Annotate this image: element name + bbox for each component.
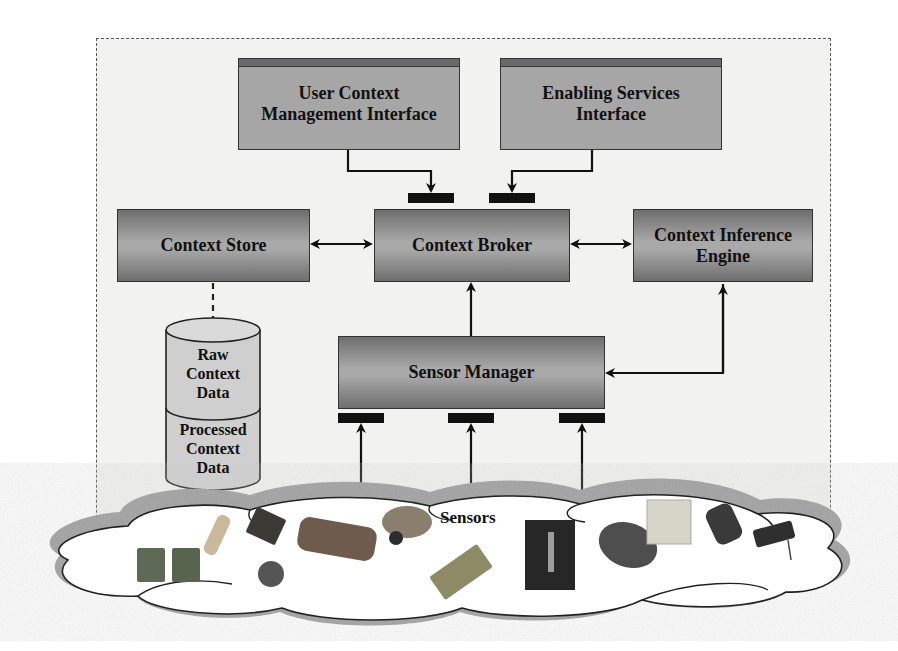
interface-header-bar (239, 59, 459, 67)
processed-line1: Processed (162, 420, 264, 439)
user-context-management-interface-box: User Context Management Interface (238, 58, 460, 150)
broker-port-right (489, 193, 535, 203)
enabling-services-line1: Enabling Services (538, 83, 684, 104)
sensor-port-1 (338, 413, 384, 423)
processed-line2: Context (162, 439, 264, 458)
context-store-box: Context Store (117, 209, 310, 282)
edge-sensors-to-manager (361, 425, 582, 492)
user-context-interface-line1: User Context (294, 83, 403, 104)
user-context-interface-line2: Management Interface (257, 104, 440, 125)
context-broker-label: Context Broker (408, 235, 536, 256)
edge-user-interface-to-broker (348, 148, 431, 191)
enabling-services-interface-box: Enabling Services Interface (500, 58, 722, 150)
edge-inference-to-sensor-manager (607, 284, 723, 373)
edge-enabling-services-to-broker (512, 148, 592, 191)
context-broker-box: Context Broker (374, 209, 570, 282)
enabling-services-line2: Interface (572, 104, 650, 125)
processed-line3: Data (162, 458, 264, 477)
interface-header-bar (501, 59, 721, 67)
sensors-cloud (50, 479, 850, 626)
sensors-label: Sensors (440, 508, 496, 528)
context-inference-engine-box: Context Inference Engine (633, 209, 813, 282)
sensor-port-3 (559, 413, 605, 423)
broker-port-left (408, 193, 454, 203)
sensor-manager-label: Sensor Manager (404, 362, 538, 383)
inference-engine-line2: Engine (692, 246, 754, 267)
inference-engine-line1: Context Inference (650, 225, 796, 246)
processed-context-data-label: Processed Context Data (162, 420, 264, 478)
sensor-port-2 (448, 413, 494, 423)
raw-line1: Raw (166, 345, 260, 364)
sensor-manager-box: Sensor Manager (338, 336, 605, 409)
context-store-label: Context Store (156, 235, 270, 256)
context-architecture-diagram: User Context Management Interface Enabli… (0, 0, 898, 651)
raw-line3: Data (166, 383, 260, 402)
raw-context-data-label: Raw Context Data (166, 345, 260, 403)
raw-line2: Context (166, 364, 260, 383)
